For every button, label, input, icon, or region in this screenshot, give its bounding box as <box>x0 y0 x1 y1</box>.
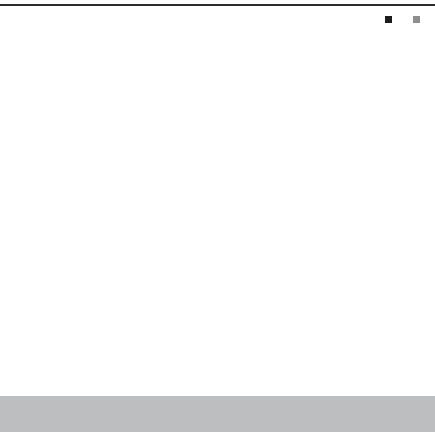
chart-sheet <box>0 0 435 438</box>
legend <box>385 16 425 23</box>
top-rule <box>0 4 435 6</box>
legend-item-upper <box>413 16 425 23</box>
square-swatch-icon <box>413 16 420 23</box>
column-headers <box>0 36 435 58</box>
total-row <box>0 396 435 432</box>
legend-item-lower <box>385 16 397 23</box>
square-swatch-icon <box>385 16 392 23</box>
